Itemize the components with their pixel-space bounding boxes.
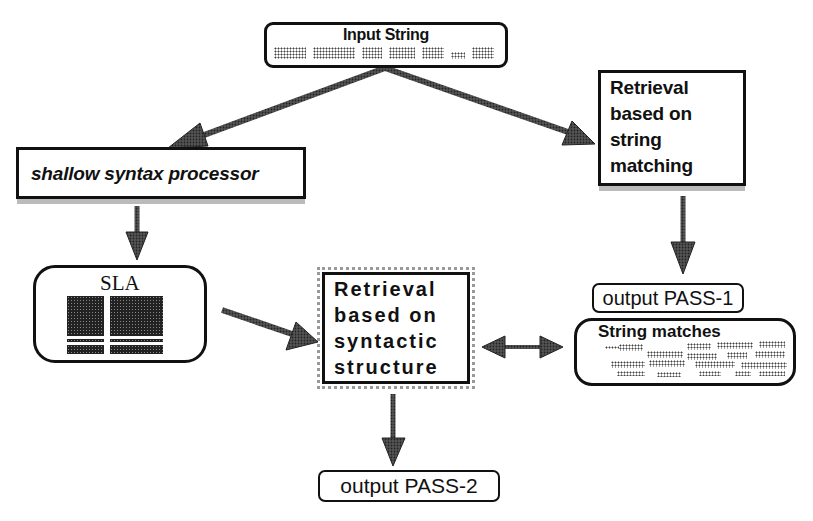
match-fragment: [647, 351, 683, 358]
match-fragment: [759, 371, 785, 376]
sla-block-mid-left: [67, 339, 104, 342]
output-pass2-label: output PASS-2: [340, 474, 477, 497]
arrow-string-retrieval-to-pass1: [671, 196, 695, 274]
match-fragment: [717, 342, 753, 349]
output-pass2-node: output PASS-2: [318, 470, 500, 502]
match-fragment: [735, 371, 751, 376]
shallow-syntax-processor-label: shallow syntax processor: [31, 163, 259, 185]
string-retrieval-node: Retrieval based on string matching: [598, 70, 746, 186]
string-matches-label: String matches: [598, 322, 721, 342]
token: [362, 47, 382, 59]
match-fragment: [649, 360, 685, 367]
match-fragment: [759, 341, 785, 348]
match-fragment: [755, 351, 785, 358]
input-string-node: Input String: [264, 22, 508, 68]
token: [389, 47, 415, 59]
arrow-sla-to-syntactic: [222, 310, 318, 350]
output-pass1-label: output PASS-1: [603, 287, 734, 309]
match-fragment: [619, 344, 643, 351]
match-fragment: [617, 371, 645, 376]
output-pass1-node: output PASS-1: [592, 283, 744, 313]
input-token-strip: [274, 45, 498, 59]
input-string-label: Input String: [267, 26, 505, 44]
sla-block-bottom-right: [110, 345, 163, 354]
token: [313, 47, 355, 59]
sla-block-top-right: [110, 296, 163, 336]
match-fragment: [741, 362, 787, 369]
arrow-input-to-string-retrieval: [385, 68, 595, 145]
string-matches-node: String matches: [574, 318, 796, 386]
match-fragment: [611, 361, 645, 368]
sla-block-mid-right: [110, 339, 163, 342]
match-fragment: [687, 353, 717, 360]
shallow-syntax-processor-node: shallow syntax processor: [16, 147, 306, 199]
syntactic-retrieval-node: Retrieval based on syntactic structure: [322, 272, 470, 384]
syntactic-retrieval-label: Retrieval based on syntactic structure: [334, 276, 439, 380]
sla-block-top-left: [67, 296, 104, 336]
token: [451, 52, 465, 59]
arrow-syntactic-to-pass2: [382, 394, 405, 466]
sla-block-bottom-left: [67, 345, 104, 354]
arrow-syntactic-matches-bidirectional: [482, 336, 563, 358]
match-fragment: [657, 372, 681, 377]
match-fragment: [687, 343, 711, 350]
sla-label: SLA: [100, 271, 140, 296]
token: [274, 47, 306, 59]
match-fragment: [695, 361, 735, 368]
string-retrieval-label: Retrieval based on string matching: [610, 75, 693, 179]
token: [472, 47, 494, 59]
match-fragment: [727, 352, 747, 359]
arrow-input-to-ssp: [168, 68, 385, 148]
match-fragment: [605, 346, 619, 349]
sla-node: SLA: [33, 265, 207, 363]
arrow-ssp-to-sla: [126, 206, 148, 260]
token: [422, 47, 444, 59]
match-fragment: [699, 371, 721, 376]
